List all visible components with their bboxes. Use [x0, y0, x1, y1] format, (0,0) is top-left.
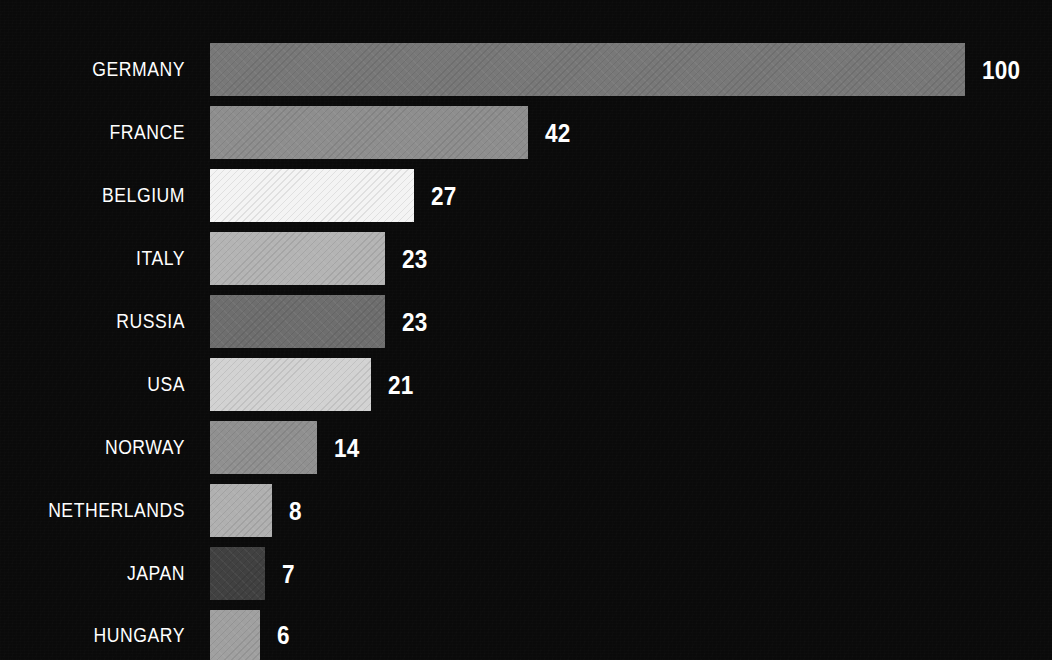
bar-texture [210, 421, 317, 474]
bar-row: HUNGARY6 [0, 610, 1052, 660]
bar-texture [210, 106, 528, 159]
bar-value-label: 8 [289, 496, 302, 525]
bar-segment [210, 295, 385, 348]
bar-row: GERMANY100 [0, 43, 1052, 96]
bar-row: USA21 [0, 358, 1052, 411]
category-label: ITALY [22, 247, 185, 270]
bar-value-label: 23 [402, 244, 428, 273]
bar-value-label: 21 [388, 370, 414, 399]
bar-value-label: 14 [334, 433, 360, 462]
category-label: NORWAY [22, 436, 185, 459]
bar-texture [210, 547, 265, 600]
bar-texture [210, 43, 965, 96]
bar-texture [210, 295, 385, 348]
bar-value-label: 42 [545, 118, 571, 147]
bar-value-label: 7 [282, 559, 295, 588]
bar-row: NETHERLANDS8 [0, 484, 1052, 537]
category-label: RUSSIA [22, 310, 185, 333]
bar-texture [210, 484, 272, 537]
bar-row: RUSSIA23 [0, 295, 1052, 348]
bar-texture [210, 358, 371, 411]
bar-row: FRANCE42 [0, 106, 1052, 159]
bar-row: NORWAY14 [0, 421, 1052, 474]
bar-value-label: 27 [431, 181, 457, 210]
category-label: JAPAN [22, 562, 185, 585]
category-label: BELGIUM [22, 184, 185, 207]
bar-texture [210, 169, 414, 222]
bar-segment [210, 358, 371, 411]
bar-row: BELGIUM27 [0, 169, 1052, 222]
bar-segment [210, 610, 260, 660]
category-label: GERMANY [22, 58, 185, 81]
bar-texture [210, 610, 260, 660]
bar-segment [210, 547, 265, 600]
category-label: NETHERLANDS [22, 499, 185, 522]
bar-segment [210, 106, 528, 159]
bar-value-label: 6 [277, 621, 290, 650]
bar-row: ITALY23 [0, 232, 1052, 285]
bar-segment [210, 169, 414, 222]
bar-chart: GERMANY100FRANCE42BELGIUM27ITALY23RUSSIA… [0, 0, 1052, 660]
category-label: HUNGARY [22, 624, 185, 647]
bar-value-label: 100 [982, 55, 1020, 84]
plot-area: GERMANY100FRANCE42BELGIUM27ITALY23RUSSIA… [0, 0, 1052, 660]
bar-row: JAPAN7 [0, 547, 1052, 600]
bar-texture [210, 232, 385, 285]
bar-value-label: 23 [402, 307, 428, 336]
category-label: USA [22, 373, 185, 396]
bar-segment [210, 484, 272, 537]
bar-segment [210, 232, 385, 285]
bar-segment [210, 43, 965, 96]
category-label: FRANCE [22, 121, 185, 144]
bar-segment [210, 421, 317, 474]
